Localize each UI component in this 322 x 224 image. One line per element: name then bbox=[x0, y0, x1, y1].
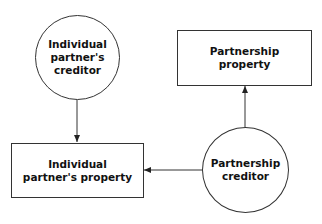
node-label: Partnership property bbox=[210, 45, 279, 71]
diagram-canvas: Individual partner's creditor Partnershi… bbox=[0, 0, 322, 224]
node-individual-partners-property: Individual partner's property bbox=[11, 143, 144, 198]
node-individual-partners-creditor: Individual partner's creditor bbox=[35, 15, 120, 100]
node-label: Individual partner's creditor bbox=[48, 38, 107, 77]
node-label: Individual partner's property bbox=[23, 158, 132, 184]
node-partnership-property: Partnership property bbox=[177, 30, 312, 86]
node-label: Partnership creditor bbox=[211, 157, 280, 183]
node-partnership-creditor: Partnership creditor bbox=[202, 127, 289, 213]
